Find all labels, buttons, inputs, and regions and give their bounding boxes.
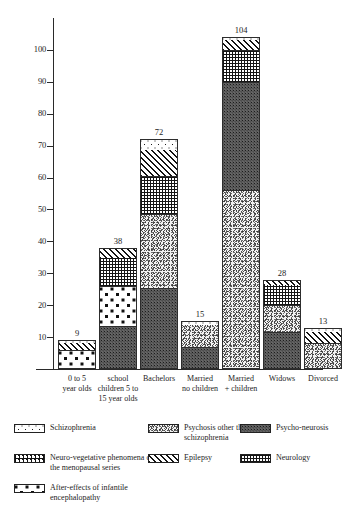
category-label-line: + children: [212, 384, 270, 394]
legend-label: Schizophrenia: [50, 423, 162, 433]
stacked-bar[interactable]: [304, 328, 342, 369]
bar-segment-encephalopathy[interactable]: [59, 351, 95, 369]
y-axis-tick: [47, 146, 54, 147]
y-axis-tick: [47, 50, 54, 51]
stacked-bar[interactable]: [58, 340, 96, 369]
legend-label: Neuro-vegetative phenomena of the menopa…: [50, 453, 162, 472]
y-axis-tick-label: 70: [2, 141, 46, 150]
bar-segment-neurology[interactable]: [100, 258, 136, 287]
bar-segment-neurology[interactable]: [264, 285, 300, 306]
stacked-bar[interactable]: [99, 248, 137, 369]
category-label-line: 15 year olds: [89, 394, 147, 404]
legend-swatch-neurovegetative: [14, 454, 45, 463]
bar-column[interactable]: 9: [58, 18, 96, 369]
y-axis-tick-label: 20: [2, 301, 46, 310]
legend-swatch-encephalopathy: [14, 484, 45, 493]
bar-segment-psycho-neurosis[interactable]: [182, 348, 218, 369]
y-axis-tick: [47, 82, 54, 83]
bar-total-label: 104: [216, 26, 266, 35]
legend-swatch-psychosis-other: [148, 424, 179, 433]
bar-segment-encephalopathy[interactable]: [100, 287, 136, 327]
bar-segment-neurology[interactable]: [141, 177, 177, 215]
bar-column[interactable]: 28: [263, 18, 301, 369]
bar-segment-epilepsy[interactable]: [305, 332, 341, 345]
bar-total-label: 15: [175, 310, 225, 319]
bar-segment-psychosis-other[interactable]: [305, 344, 341, 369]
stacked-bar[interactable]: [140, 139, 178, 369]
x-axis-category-label: Divorced: [294, 374, 346, 384]
y-axis-tick: [47, 114, 54, 115]
bar-segment-psycho-neurosis[interactable]: [141, 289, 177, 369]
bar-segment-psycho-neurosis[interactable]: [100, 327, 136, 369]
bar-total-label: 9: [52, 329, 102, 338]
bar-column[interactable]: 38: [99, 18, 137, 369]
y-axis-tick-label: 30: [2, 269, 46, 278]
y-axis-tick: [47, 305, 54, 306]
legend-label: Psycho-neurosis: [276, 423, 346, 433]
y-axis-tick-label: 60: [2, 173, 46, 182]
legend-swatch-epilepsy: [148, 454, 179, 463]
bar-segment-psycho-neurosis[interactable]: [223, 83, 259, 191]
y-axis-tick: [47, 241, 54, 242]
bar-segment-neurology[interactable]: [223, 51, 259, 83]
bar-column[interactable]: 13: [304, 18, 342, 369]
category-label-line: children 5 to: [89, 384, 147, 394]
bar-segment-psychosis-other[interactable]: [182, 325, 218, 347]
bar-total-label: 13: [298, 317, 346, 326]
y-axis-tick: [47, 178, 54, 179]
bar-segment-epilepsy[interactable]: [223, 40, 259, 51]
bar-total-label: 28: [257, 269, 307, 278]
category-label-line: Divorced: [294, 374, 346, 384]
stacked-bar[interactable]: [181, 321, 219, 369]
y-axis-tick-label: 40: [2, 237, 46, 246]
legend-swatch-psycho-neurosis: [240, 424, 271, 433]
bar-segment-epilepsy[interactable]: [141, 150, 177, 177]
y-axis-tick-label: 90: [2, 77, 46, 86]
bar-total-label: 72: [134, 128, 184, 137]
legend-swatch-schizophrenia: [14, 424, 45, 433]
stacked-bar[interactable]: [222, 37, 260, 369]
bar-segment-epilepsy[interactable]: [59, 343, 95, 351]
bar-segment-epilepsy[interactable]: [100, 249, 136, 259]
y-axis-tick-label: 80: [2, 109, 46, 118]
bar-column[interactable]: 15: [181, 18, 219, 369]
legend-label: After-effects of infantile encephalopath…: [50, 483, 162, 502]
plot-area: 93872151042813: [54, 18, 322, 369]
y-axis-tick: [47, 209, 54, 210]
stacked-bar[interactable]: [263, 280, 301, 369]
legend-label: Neurology: [276, 453, 346, 463]
bar-segment-psychosis-other[interactable]: [264, 306, 300, 333]
bar-total-label: 38: [93, 237, 143, 246]
y-axis-tick-label: 50: [2, 205, 46, 214]
bar-segment-psychosis-other[interactable]: [141, 215, 177, 288]
legend-swatch-neurology: [240, 454, 271, 463]
y-axis-tick: [47, 273, 54, 274]
y-axis-tick-label: 10: [2, 333, 46, 342]
bar-column[interactable]: 72: [140, 18, 178, 369]
bar-segment-psychosis-other[interactable]: [223, 191, 259, 369]
y-axis-tick-label: 100: [2, 45, 46, 54]
stacked-bar-chart: 102030405060708090100 93872151042813 0 t…: [0, 0, 327, 410]
bar-column[interactable]: 104: [222, 18, 260, 369]
x-axis-line: [36, 369, 323, 370]
bar-segment-schizophrenia[interactable]: [141, 140, 177, 150]
bar-segment-psycho-neurosis[interactable]: [264, 333, 300, 369]
chart-legend: SchizophreniaPsychosis other than schizo…: [0, 416, 327, 506]
